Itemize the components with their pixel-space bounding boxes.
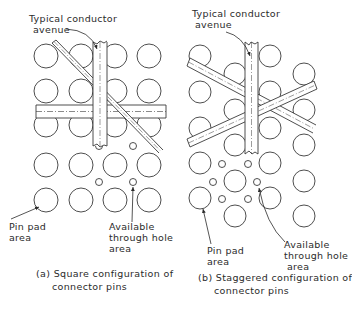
pin-pad-circle — [137, 188, 161, 212]
panel-b-vertical-avenue — [245, 42, 258, 154]
pin-pad-circle — [69, 188, 93, 212]
panel-a-pin-label-line1: Pin pad — [9, 221, 46, 232]
through-hole-circle — [219, 196, 226, 203]
pin-pad-circle — [69, 153, 93, 177]
pin-pad-circle — [259, 187, 281, 209]
pin-pad-circle — [189, 81, 211, 103]
pin-pad-circle — [259, 152, 281, 174]
through-hole-circle — [245, 161, 252, 168]
pin-pad-circle — [137, 44, 161, 68]
panel-b-hole-label-line1: Available — [284, 239, 330, 250]
panel-a-hole-label-line3: area — [109, 243, 131, 254]
panel-b-avenue-label-line2: avenue — [195, 19, 232, 30]
pin-pad-circle — [224, 205, 246, 227]
pin-pad-circle — [293, 205, 315, 227]
panel-a-pin-label-line2: area — [9, 232, 31, 243]
through-hole-circle — [210, 179, 217, 186]
pin-pad-circle — [103, 153, 127, 177]
panel-b-caption-line1: (b) Staggered configuration of — [198, 272, 352, 284]
panel-a-hole-label-line1: Available — [109, 221, 155, 232]
through-hole-circle — [130, 143, 137, 150]
pin-pad-circle — [259, 45, 281, 67]
panel-b-hole-label-line2: through hole — [284, 250, 348, 261]
through-hole-circle — [254, 179, 261, 186]
pin-pad-circle — [69, 79, 93, 103]
panel-b-pin-label-line2: area — [207, 256, 229, 267]
pin-pad-circle — [189, 187, 211, 209]
panel-b-hole-label-line3: area — [287, 261, 309, 272]
panel-a-hole-label-line2: through hole — [109, 232, 173, 243]
pin-pad-circle — [293, 170, 315, 192]
panel-a-pin-leader — [11, 207, 39, 219]
pin-pad-circle — [34, 153, 58, 177]
panel-b-pin-label-line1: Pin pad — [207, 245, 244, 256]
panel-a-vertical-avenue — [93, 41, 107, 147]
pin-pad-circle — [103, 188, 127, 212]
through-hole-circle — [245, 196, 252, 203]
through-hole-circle — [130, 179, 137, 186]
pin-pad-circle — [224, 134, 246, 156]
panel-b-caption-line2: connector pins — [214, 285, 289, 297]
through-hole-circle — [219, 161, 226, 168]
pin-pad-circle — [34, 188, 58, 212]
pin-pad-circle — [34, 79, 58, 103]
panel-a-caption-line2: connector pins — [52, 281, 127, 293]
panel-a-avenue-label-line1: Typical conductor — [29, 13, 117, 24]
panel-a-caption-line1: (a) Square configuration of — [36, 268, 173, 280]
panel-a-hole-leader — [132, 187, 133, 222]
pin-pad-circle — [137, 79, 161, 103]
panel-a-avenue-label-line2: avenue — [33, 24, 70, 35]
panel-b-pin-leader — [203, 209, 211, 244]
pin-pad-circle — [224, 170, 246, 192]
pin-pad-circle — [293, 134, 315, 156]
pin-pad-circle — [259, 117, 281, 139]
through-hole-circle — [96, 179, 103, 186]
panel-b-avenue-label-line1: Typical conductor — [192, 8, 280, 19]
pin-pad-circle — [189, 152, 211, 174]
pin-pad-circle — [34, 44, 58, 68]
pin-pad-circle — [137, 153, 161, 177]
